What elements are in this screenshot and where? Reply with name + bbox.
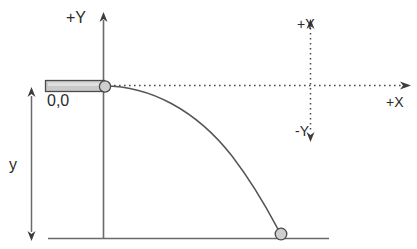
drop-height-arrow-up-icon <box>28 87 36 97</box>
drop-height-dimension-arrow <box>28 87 36 241</box>
secondary-positive-x-label: +X <box>386 95 404 109</box>
positive-y-axis-label: +Y <box>66 10 86 26</box>
secondary-negative-y-label: -Y <box>295 124 309 138</box>
horizontal-axis-dotted <box>104 82 411 90</box>
origin-coordinate-label: 0,0 <box>47 93 69 109</box>
drop-height-arrow-down-icon <box>28 231 36 241</box>
launch-table <box>46 81 105 92</box>
launch-table-highlight <box>48 83 101 87</box>
vertical-axis-solid <box>100 12 108 238</box>
secondary-positive-y-label: +Y <box>297 17 315 31</box>
projectile-ball-start <box>99 81 110 92</box>
figure-canvas <box>0 0 417 249</box>
projectile-trajectory-curve <box>104 86 280 233</box>
projectile-ball-landing <box>275 228 287 240</box>
horizontal-axis-arrow-head-icon <box>400 82 411 90</box>
drop-height-label: y <box>9 157 17 173</box>
projectile-motion-figure: +Y 0,0 y +Y -Y +X <box>0 0 417 249</box>
